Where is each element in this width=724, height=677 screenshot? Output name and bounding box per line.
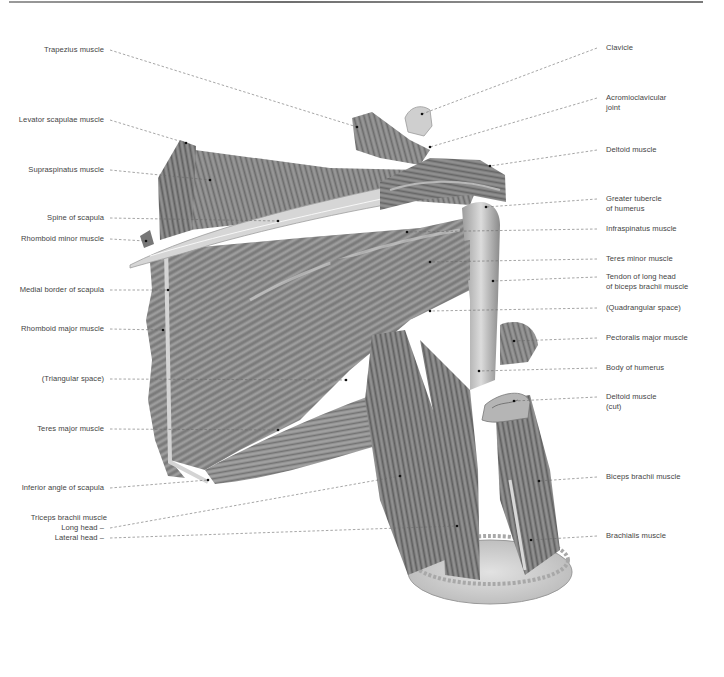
label-triangular-space: (Triangular space) — [42, 374, 104, 384]
label-text: (Quadrangular space) — [606, 303, 681, 313]
label-rhomboid-major: Rhomboid major muscle — [21, 324, 104, 334]
label-text-line2: joint — [606, 103, 666, 113]
label-teres-minor: Teres minor muscle — [606, 254, 673, 264]
rhomboid-minor-muscle — [140, 230, 154, 248]
pectoralis-major-muscle — [500, 322, 538, 365]
label-deltoid-cut: Deltoid muscle(cut) — [606, 392, 657, 412]
label-text: Deltoid muscle — [606, 145, 657, 155]
label-text: Infraspinatus muscle — [606, 224, 677, 234]
label-brachialis: Brachialis muscle — [606, 531, 666, 541]
label-spine-of-scapula: Spine of scapula — [47, 213, 104, 223]
levator-scapulae-muscle — [158, 140, 196, 240]
label-text: Biceps brachii muscle — [606, 472, 681, 482]
label-text: Brachialis muscle — [606, 531, 666, 541]
label-text: Teres minor muscle — [606, 254, 673, 264]
label-biceps-brachii: Biceps brachii muscle — [606, 472, 681, 482]
triceps-group-label: Triceps brachii muscle — [31, 513, 107, 523]
label-infraspinatus: Infraspinatus muscle — [606, 224, 677, 234]
label-inferior-angle: Inferior angle of scapula — [22, 483, 104, 493]
label-text: Body of humerus — [606, 363, 664, 373]
label-teres-major: Teres major muscle — [37, 424, 104, 434]
clavicle-bone — [405, 107, 432, 136]
label-body-of-humerus: Body of humerus — [606, 363, 664, 373]
label-trapezius: Trapezius muscle — [44, 45, 104, 55]
label-triceps-lateral-head: Lateral head – — [55, 533, 104, 543]
label-text: Acromioclavicular — [606, 93, 666, 103]
deltoid-cut — [482, 393, 530, 422]
label-text: Tendon of long head — [606, 272, 688, 282]
label-text-line2: (cut) — [606, 402, 657, 412]
label-clavicle: Clavicle — [606, 43, 633, 53]
label-rhomboid-minor: Rhomboid minor muscle — [21, 234, 104, 244]
label-text: Greater tubercle — [606, 194, 662, 204]
label-text: Pectoralis major muscle — [606, 333, 688, 343]
label-triceps-long-head: Long head – — [61, 523, 104, 533]
label-text: Clavicle — [606, 43, 633, 53]
label-greater-tubercle: Greater tubercleof humerus — [606, 194, 662, 214]
label-text-line2: of humerus — [606, 204, 662, 214]
label-acromioclavicular-joint: Acromioclavicularjoint — [606, 93, 666, 113]
label-quadrangular-space: (Quadrangular space) — [606, 303, 681, 313]
label-deltoid: Deltoid muscle — [606, 145, 657, 155]
label-text: Deltoid muscle — [606, 392, 657, 402]
label-text-line2: of biceps brachii muscle — [606, 282, 688, 292]
label-supraspinatus: Supraspinatus muscle — [28, 165, 104, 175]
label-pectoralis-major: Pectoralis major muscle — [606, 333, 688, 343]
humerus — [462, 202, 500, 390]
label-biceps-long-head-tendon: Tendon of long headof biceps brachii mus… — [606, 272, 688, 292]
label-levator-scapulae: Levator scapulae muscle — [19, 115, 104, 125]
label-medial-border: Medial border of scapula — [20, 285, 104, 295]
